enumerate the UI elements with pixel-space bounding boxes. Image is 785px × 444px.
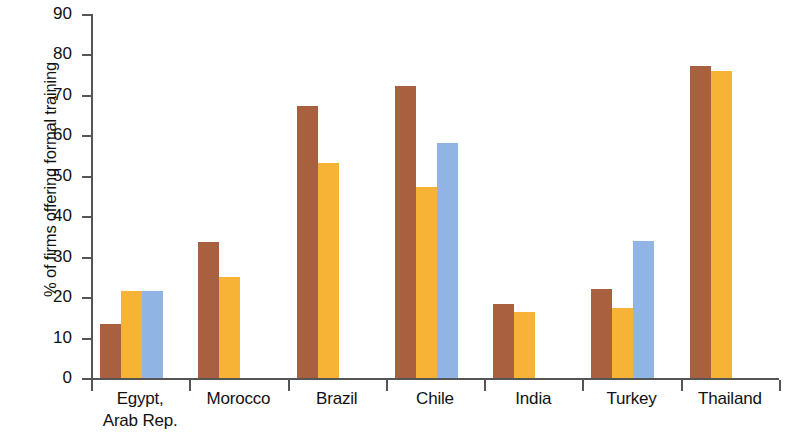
y-axis-tick-label: 90: [12, 4, 72, 24]
y-axis-tick-label: 80: [12, 44, 72, 64]
y-axis-tick: [82, 338, 91, 340]
y-axis-tick: [82, 216, 91, 218]
bar: [690, 66, 711, 378]
y-axis-tick-label: 0: [12, 368, 72, 388]
y-axis-line: [91, 14, 93, 379]
bar: [437, 143, 458, 378]
y-axis-tick-label: 40: [12, 206, 72, 226]
bar: [198, 242, 219, 378]
y-axis-tick: [82, 257, 91, 259]
y-axis-tick-labels: 0102030405060708090: [12, 14, 72, 378]
x-axis-category-label: Thailand: [663, 388, 785, 410]
y-axis-tick: [82, 14, 91, 16]
x-axis-line: [91, 378, 779, 380]
y-axis-tick-label: 20: [12, 287, 72, 307]
bar: [493, 304, 514, 378]
y-axis-tick: [82, 54, 91, 56]
bar: [121, 291, 142, 378]
y-axis-tick-label: 10: [12, 328, 72, 348]
bar: [633, 241, 654, 378]
bar: [711, 71, 732, 378]
y-axis-tick: [82, 135, 91, 137]
bar: [100, 324, 121, 378]
bar: [612, 308, 633, 378]
bar: [219, 277, 240, 378]
y-axis-tick: [82, 176, 91, 178]
y-axis-tick-label: 30: [12, 247, 72, 267]
y-axis-tick-label: 60: [12, 125, 72, 145]
y-axis-tick-label: 70: [12, 85, 72, 105]
bar: [318, 163, 339, 378]
bar: [142, 291, 163, 378]
y-axis-tick: [82, 95, 91, 97]
plot-area: [91, 14, 779, 378]
y-axis-tick: [82, 378, 91, 380]
y-axis-tick-label: 50: [12, 166, 72, 186]
bar: [416, 187, 437, 378]
y-axis-tick: [82, 297, 91, 299]
bar: [395, 86, 416, 378]
bar: [297, 106, 318, 378]
bar: [591, 289, 612, 378]
bar: [514, 312, 535, 378]
